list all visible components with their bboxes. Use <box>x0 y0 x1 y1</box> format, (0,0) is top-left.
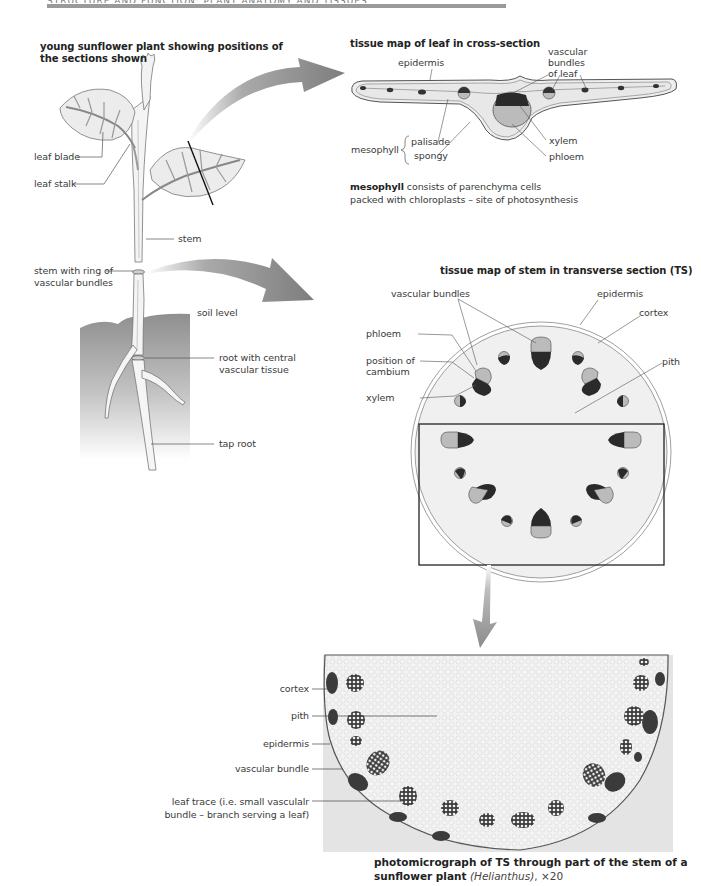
label-photo-vascular-bundle: vascular bundle <box>235 763 309 775</box>
label-photo-cortex: cortex <box>280 683 309 695</box>
label-spongy: spongy <box>414 150 448 162</box>
label-leaf-trace-line1: leaf trace (i.e. small vasculalr <box>164 795 309 808</box>
label-stem-phloem: phloem <box>366 328 401 340</box>
label-photo-pith: pith <box>291 710 309 722</box>
label-stem-epidermis: epidermis <box>597 288 643 300</box>
label-cambium-line2: cambium <box>366 366 415 377</box>
diagram-canvas <box>0 0 701 886</box>
leaf-cross-section-map <box>352 69 677 164</box>
plant-title-line2: the sections shown <box>40 53 283 65</box>
label-palisade: palisade <box>411 136 450 148</box>
label-vascular-line3: of leaf <box>548 68 587 79</box>
arrow-to-stem-section <box>146 258 314 302</box>
label-stem-vascular-bundles: vascular bundles <box>391 288 470 300</box>
label-mesophyll: mesophyll <box>351 144 399 156</box>
label-leaf-phloem: phloem <box>549 151 584 163</box>
arrow-to-photomicrograph <box>473 565 497 648</box>
label-tap-root: tap root <box>219 438 256 450</box>
label-root-line1: root with central <box>219 352 296 364</box>
label-root: root with central vascular tissue <box>219 352 296 376</box>
label-stem-ring: stem with ring of vascular bundles <box>34 265 113 289</box>
label-vascular-line2: bundles <box>548 57 587 68</box>
label-cambium: position of cambium <box>366 355 415 377</box>
label-photo-epidermis: epidermis <box>263 738 309 750</box>
label-leaf-stalk: leaf stalk <box>34 178 76 190</box>
label-leaf-blade: leaf blade <box>34 151 80 163</box>
plant-title-line1: young sunflower plant showing positions … <box>40 41 283 53</box>
stem-section-title: tissue map of stem in transverse section… <box>440 265 692 277</box>
stem-transverse-section-map <box>411 299 671 582</box>
photomicrograph-caption: photomicrograph of TS through part of th… <box>374 855 688 883</box>
label-leaf-vascular-bundles: vascular bundles of leaf <box>548 46 587 79</box>
mesophyll-note-line1: consists of parenchyma cells <box>404 181 541 192</box>
label-stem: stem <box>178 233 201 245</box>
label-cambium-line1: position of <box>366 355 415 366</box>
caption-genus: (Helianthus) <box>470 870 534 882</box>
label-stem-cortex: cortex <box>639 307 668 319</box>
mesophyll-note-bold: mesophyll <box>350 181 404 192</box>
label-vascular-line1: vascular <box>548 46 587 57</box>
mesophyll-note-line2: packed with chloroplasts – site of photo… <box>350 193 578 206</box>
label-stem-xylem: xylem <box>366 392 394 404</box>
label-stem-ring-line1: stem with ring of <box>34 265 113 277</box>
leaf-section-title: tissue map of leaf in cross-section <box>350 38 540 50</box>
caption-line2-bold: sunflower plant <box>374 870 467 882</box>
label-leaf-xylem: xylem <box>549 135 577 147</box>
label-stem-pith: pith <box>662 356 680 368</box>
label-leaf-trace-line2: bundle – branch serving a leaf) <box>164 808 309 821</box>
caption-magnification: , ×20 <box>534 870 563 882</box>
arrow-to-leaf-section <box>188 58 345 142</box>
label-root-line2: vascular tissue <box>219 364 296 376</box>
label-photo-leaf-trace: leaf trace (i.e. small vasculalr bundle … <box>164 795 309 821</box>
plant-title: young sunflower plant showing positions … <box>40 41 283 65</box>
label-soil-level: soil level <box>197 307 238 319</box>
caption-line1: photomicrograph of TS through part of th… <box>374 856 688 868</box>
label-leaf-epidermis: epidermis <box>398 57 444 69</box>
label-stem-ring-line2: vascular bundles <box>34 277 113 289</box>
photomicrograph-image <box>312 655 673 852</box>
mesophyll-note: mesophyll consists of parenchyma cells p… <box>350 180 578 206</box>
